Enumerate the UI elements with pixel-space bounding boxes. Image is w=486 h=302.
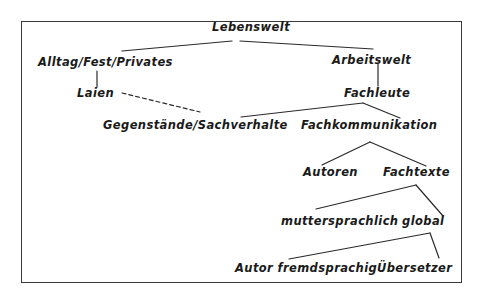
edge-fachtexte-muttersprachlich: [316, 185, 416, 209]
node-gegenstaende-sachverhalte: Gegenstände/Sachverhalte: [103, 118, 288, 132]
node-fachtexte: Fachtexte: [383, 165, 450, 179]
edge-lebenswelt-arbeitswelt: [240, 41, 373, 49]
edge-global-uebersetzer: [430, 233, 439, 258]
node-laien: Laien: [77, 86, 114, 100]
edge-fachkommunikation-fachtexte: [370, 142, 426, 166]
node-uebersetzer: Übersetzer: [377, 261, 452, 275]
node-autor-fremdsprachig: Autor fremdsprachig: [235, 261, 377, 275]
edge-laien-gegenstaende-dashed: [122, 93, 200, 112]
node-global: global: [402, 214, 444, 228]
edge-fachleute-gegenstaende: [241, 103, 363, 117]
edge-fachtexte-global: [416, 185, 443, 216]
edge-fachleute-fachkommunikation: [363, 103, 400, 118]
edge-fachkommunikation-autoren: [322, 142, 370, 165]
edge-global-autor-fremdsprachig: [289, 233, 430, 259]
node-fachkommunikation: Fachkommunikation: [301, 118, 437, 132]
node-alltag-fest-privates: Alltag/Fest/Privates: [38, 55, 173, 69]
edge-lebenswelt-alltag: [122, 41, 232, 51]
node-muttersprachlich: muttersprachlich: [281, 214, 398, 228]
node-lebenswelt: Lebenswelt: [212, 20, 290, 34]
node-arbeitswelt: Arbeitswelt: [332, 53, 411, 67]
node-fachleute: Fachleute: [344, 86, 410, 100]
node-autoren: Autoren: [303, 165, 358, 179]
tree-edges: [0, 0, 486, 302]
